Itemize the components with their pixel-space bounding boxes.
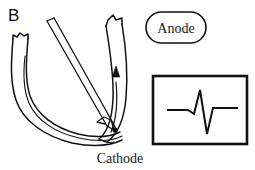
lead-left-tip-notch xyxy=(13,33,28,39)
figure-illustration: B xyxy=(0,0,255,170)
needle-contact-point xyxy=(112,127,117,132)
cathode-label: Cathode xyxy=(97,151,144,166)
lead-right-tip-notch xyxy=(106,15,122,26)
current-flow-arrow-head xyxy=(112,66,120,77)
panel-letter-b: B xyxy=(8,6,19,25)
electrogram-inset xyxy=(153,76,247,144)
lead-right-outer-wall xyxy=(107,24,127,142)
needle-butt-end xyxy=(47,18,54,21)
needle-shaft-edge-lower xyxy=(54,18,113,123)
lead-left-inner-wall xyxy=(26,39,120,136)
figure-panel-b: B xyxy=(0,0,255,170)
anode-label-group: Anode xyxy=(146,12,206,43)
needle-shaft-edge-upper xyxy=(47,21,107,126)
anode-label: Anode xyxy=(157,21,194,36)
catheter-lead xyxy=(11,15,126,145)
